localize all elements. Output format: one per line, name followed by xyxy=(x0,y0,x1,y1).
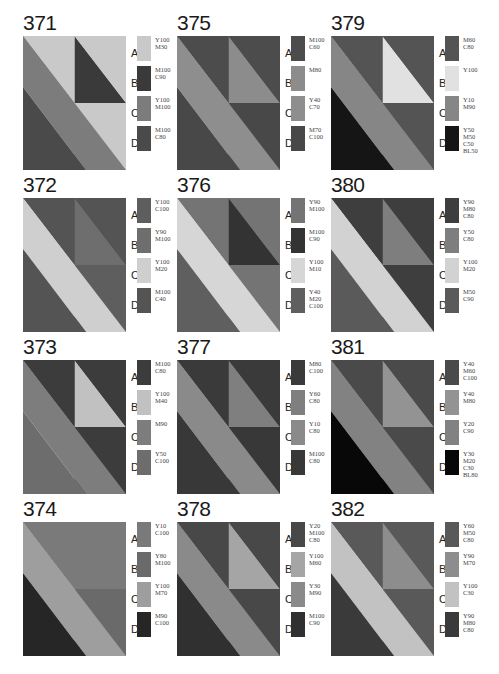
swatch-cmyk-label: Y100 C30 xyxy=(463,582,477,596)
swatch-cmyk-label: M80 C100 xyxy=(309,360,323,374)
color-swatch-a xyxy=(445,36,459,61)
panel-number: 380 xyxy=(331,174,365,196)
swatch-cmyk-label: Y10 C100 xyxy=(155,522,169,536)
swatch-cmyk-label: Y80 M100 xyxy=(155,552,171,566)
color-composition-square xyxy=(177,522,280,656)
color-swatch-d xyxy=(291,126,305,151)
swatch-cmyk-label: Y100 M20 xyxy=(463,258,477,272)
panel-number: 373 xyxy=(23,336,57,358)
panel-number: 379 xyxy=(331,12,365,34)
swatch-cmyk-label: Y90 M80 C80 xyxy=(463,198,475,219)
color-swatch-c xyxy=(291,96,305,121)
swatch-cmyk-label: Y30 M90 xyxy=(309,582,321,596)
swatch-cmyk-label: Y100 M100 xyxy=(155,96,171,110)
panel-number: 375 xyxy=(177,12,211,34)
color-swatch-a xyxy=(137,36,151,61)
swatch-cmyk-label: Y60 C80 xyxy=(309,390,320,404)
color-swatch-d xyxy=(137,288,151,313)
swatch-cmyk-label: M100 C80 xyxy=(309,450,325,464)
color-panel-374: 374AY10 C100BY80 M100CY100 M70DM90 C100 xyxy=(23,498,183,663)
swatch-cmyk-label: M100 C40 xyxy=(155,288,171,302)
color-composition-square xyxy=(331,36,434,170)
color-swatch-a xyxy=(137,198,151,223)
color-swatch-b xyxy=(445,390,459,415)
color-swatch-d xyxy=(445,288,459,313)
color-swatch-d xyxy=(137,126,151,151)
color-composition-square xyxy=(23,36,126,170)
color-swatch-c xyxy=(445,582,459,607)
swatch-cmyk-label: Y50 C80 xyxy=(463,228,474,242)
swatch-cmyk-label: M90 xyxy=(155,420,167,427)
color-composition-square xyxy=(23,198,126,332)
color-swatch-a xyxy=(445,522,459,547)
color-swatch-b xyxy=(291,228,305,253)
color-swatch-a xyxy=(137,360,151,385)
color-panel-380: 380AY90 M80 C80BY50 C80CY100 M20DM50 C90 xyxy=(331,174,491,339)
swatch-cmyk-label: Y40 M20 C100 xyxy=(309,288,323,309)
swatch-cmyk-label: Y90 M70 xyxy=(463,552,475,566)
color-swatch-d xyxy=(137,450,151,475)
swatch-cmyk-label: M100 C60 xyxy=(309,36,325,50)
swatch-cmyk-label: Y10 M90 xyxy=(463,96,475,110)
panel-number: 374 xyxy=(23,498,57,520)
color-panel-378: 378AY20 M100 C80BY100 M60CY30 M90DM100 C… xyxy=(177,498,337,663)
swatch-cmyk-label: M100 C90 xyxy=(309,612,325,626)
color-swatch-c xyxy=(137,258,151,283)
color-swatch-a xyxy=(291,198,305,223)
color-panel-377: 377AM80 C100BY60 C80CY10 C80DM100 C80 xyxy=(177,336,337,501)
color-swatch-b xyxy=(445,66,459,91)
color-swatch-a xyxy=(291,36,305,61)
color-swatch-a xyxy=(291,522,305,547)
swatch-cmyk-label: M100 C80 xyxy=(155,360,171,374)
swatch-cmyk-label: Y100 M30 xyxy=(155,36,169,50)
color-composition-square xyxy=(177,198,280,332)
color-swatch-c xyxy=(445,258,459,283)
swatch-cmyk-label: Y90 M100 xyxy=(309,198,325,212)
color-swatch-b xyxy=(137,552,151,577)
color-swatch-a xyxy=(291,360,305,385)
color-panel-382: 382AY60 M50 C80BY90 M70CY100 C30DY90 M80… xyxy=(331,498,491,663)
color-composition-square xyxy=(23,522,126,656)
color-panel-376: 376AY90 M100BM100 C90CY100 M10DY40 M20 C… xyxy=(177,174,337,339)
color-swatch-c xyxy=(137,582,151,607)
swatch-cmyk-label: M100 C90 xyxy=(309,228,325,242)
color-composition-square xyxy=(331,198,434,332)
swatch-cmyk-label: Y60 M50 C80 xyxy=(463,522,475,543)
color-swatch-a xyxy=(445,360,459,385)
swatch-cmyk-label: M100 C90 xyxy=(155,66,171,80)
color-swatch-b xyxy=(445,228,459,253)
panel-number: 382 xyxy=(331,498,365,520)
color-swatch-c xyxy=(445,96,459,121)
swatch-cmyk-label: Y90 M80 C80 xyxy=(463,612,475,633)
color-swatch-c xyxy=(291,258,305,283)
color-swatch-b xyxy=(291,390,305,415)
swatch-cmyk-label: M90 C100 xyxy=(155,612,169,626)
color-swatch-d xyxy=(445,450,459,475)
swatch-cmyk-label: M50 C90 xyxy=(463,288,475,302)
panel-number: 376 xyxy=(177,174,211,196)
swatch-cmyk-label: M100 C80 xyxy=(155,126,171,140)
color-composition-square xyxy=(23,360,126,494)
swatch-cmyk-label: Y100 M70 xyxy=(155,582,169,596)
color-panel-379: 379AM60 C80BY100CY10 M90DY50 M50 C50 BL5… xyxy=(331,12,491,177)
color-swatch-a xyxy=(137,522,151,547)
color-swatch-d xyxy=(291,450,305,475)
swatch-cmyk-label: Y100 M60 xyxy=(309,552,323,566)
color-swatch-d xyxy=(137,612,151,637)
swatch-cmyk-label: Y20 M100 C80 xyxy=(309,522,325,543)
color-swatch-c xyxy=(137,420,151,445)
color-panel-375: 375AM100 C60BM80CY40 C70DM70 C100 xyxy=(177,12,337,177)
swatch-cmyk-label: Y10 C80 xyxy=(309,420,320,434)
color-swatch-b xyxy=(291,66,305,91)
panel-number: 377 xyxy=(177,336,211,358)
color-swatch-d xyxy=(445,612,459,637)
panel-number: 371 xyxy=(23,12,57,34)
color-composition-square xyxy=(331,522,434,656)
swatch-cmyk-label: Y40 M80 xyxy=(463,390,475,404)
color-panel-371: 371AY100 M30BM100 C90CY100 M100DM100 C80 xyxy=(23,12,183,177)
panel-number: 378 xyxy=(177,498,211,520)
swatch-cmyk-label: Y100 M10 xyxy=(309,258,323,272)
color-composition-square xyxy=(177,36,280,170)
swatch-cmyk-label: Y20 C90 xyxy=(463,420,474,434)
color-composition-square xyxy=(177,360,280,494)
